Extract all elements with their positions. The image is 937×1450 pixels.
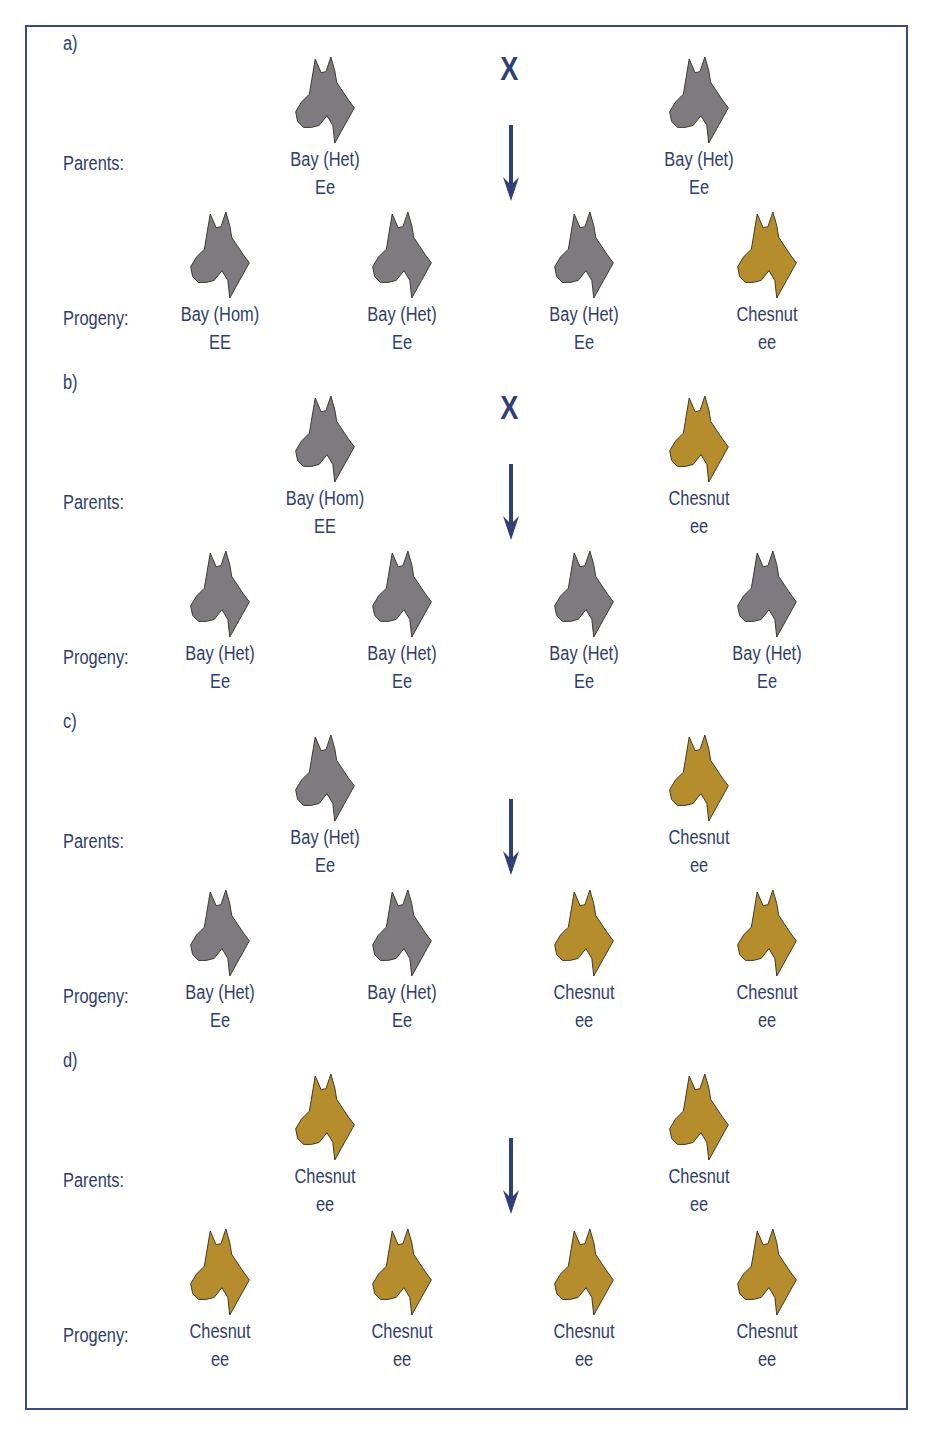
arrow-down-icon [501, 464, 521, 542]
cross-section: a) Parents: Progeny: XBay (Het)EeBay (He… [27, 27, 906, 367]
genotype-label: ee [167, 1345, 274, 1373]
cross-section: c) Parents: Progeny: Bay (Het)EeChesnute… [27, 705, 906, 1045]
genotype-label: Ee [272, 851, 379, 879]
phenotype-label: Bay (Het) [349, 300, 456, 328]
phenotype-label: Bay (Het) [531, 300, 638, 328]
genotype-label: ee [272, 1190, 379, 1218]
phenotype-label: Bay (Het) [714, 639, 821, 667]
phenotype-label: Chesnut [714, 978, 821, 1006]
phenotype-label: Bay (Het) [531, 639, 638, 667]
progeny-horse: Chesnutee [702, 212, 832, 356]
genotype-label: Ee [349, 1006, 456, 1034]
phenotype-label: Bay (Het) [272, 145, 379, 173]
parent-horse: Bay (Het)Ee [634, 57, 764, 201]
parent-horse: Bay (Het)Ee [260, 735, 390, 879]
phenotype-label: Chesnut [531, 1317, 638, 1345]
genotype-label: Ee [272, 173, 379, 201]
progeny-horse: Chesnutee [519, 890, 649, 1034]
phenotype-label: Bay (Het) [646, 145, 753, 173]
phenotype-label: Bay (Het) [167, 639, 274, 667]
progeny-horse: Bay (Het)Ee [155, 890, 285, 1034]
progeny-horse: Bay (Het)Ee [519, 551, 649, 695]
horse-head-icon [290, 1074, 360, 1162]
phenotype-label: Bay (Hom) [272, 484, 379, 512]
horse-head-icon [290, 57, 360, 145]
progeny-row-label: Progeny: [63, 307, 129, 330]
horse-head-icon [185, 1229, 255, 1317]
genotype-label: Ee [714, 667, 821, 695]
progeny-horse: Bay (Het)Ee [337, 890, 467, 1034]
cross-symbol: X [500, 388, 518, 427]
genotype-label: ee [646, 851, 753, 879]
phenotype-label: Bay (Het) [167, 978, 274, 1006]
progeny-horse: Bay (Hom)EE [155, 212, 285, 356]
genotype-label: Ee [167, 1006, 274, 1034]
arrow-down-icon [501, 1138, 521, 1216]
cross-symbol: X [500, 49, 518, 88]
phenotype-label: Bay (Het) [272, 823, 379, 851]
horse-head-icon [367, 551, 437, 639]
parent-horse: Bay (Het)Ee [260, 57, 390, 201]
genotype-label: Ee [531, 328, 638, 356]
horse-head-icon [185, 212, 255, 300]
parents-row-label: Parents: [63, 830, 124, 853]
phenotype-label: Bay (Het) [349, 978, 456, 1006]
genotype-label: Ee [646, 173, 753, 201]
horse-head-icon [290, 735, 360, 823]
phenotype-label: Chesnut [646, 484, 753, 512]
parent-horse: Chesnutee [634, 1074, 764, 1218]
progeny-horse: Bay (Het)Ee [519, 212, 649, 356]
phenotype-label: Chesnut [272, 1162, 379, 1190]
genotype-label: EE [272, 512, 379, 540]
progeny-horse: Chesnutee [519, 1229, 649, 1373]
section-label: a) [63, 32, 78, 55]
progeny-horse: Bay (Het)Ee [337, 212, 467, 356]
phenotype-label: Chesnut [167, 1317, 274, 1345]
section-label: c) [63, 710, 77, 733]
diagram-frame: a) Parents: Progeny: XBay (Het)EeBay (He… [25, 25, 908, 1410]
horse-head-icon [549, 1229, 619, 1317]
parent-horse: Chesnutee [260, 1074, 390, 1218]
horse-head-icon [290, 396, 360, 484]
horse-head-icon [664, 396, 734, 484]
progeny-horse: Bay (Het)Ee [702, 551, 832, 695]
genotype-label: Ee [167, 667, 274, 695]
parent-horse: Chesnutee [634, 735, 764, 879]
genotype-label: ee [531, 1345, 638, 1373]
genotype-label: ee [531, 1006, 638, 1034]
parents-row-label: Parents: [63, 491, 124, 514]
progeny-row-label: Progeny: [63, 646, 129, 669]
progeny-horse: Chesnutee [702, 890, 832, 1034]
genotype-label: Ee [349, 328, 456, 356]
parent-horse: Chesnutee [634, 396, 764, 540]
progeny-row-label: Progeny: [63, 985, 129, 1008]
horse-head-icon [664, 1074, 734, 1162]
horse-head-icon [185, 890, 255, 978]
horse-head-icon [549, 212, 619, 300]
genotype-label: ee [714, 328, 821, 356]
section-label: d) [63, 1049, 78, 1072]
progeny-horse: Chesnutee [337, 1229, 467, 1373]
phenotype-label: Chesnut [349, 1317, 456, 1345]
genotype-label: ee [646, 512, 753, 540]
horse-head-icon [367, 890, 437, 978]
horse-head-icon [732, 890, 802, 978]
horse-head-icon [664, 735, 734, 823]
horse-head-icon [664, 57, 734, 145]
genotype-label: Ee [531, 667, 638, 695]
horse-head-icon [367, 212, 437, 300]
phenotype-label: Chesnut [531, 978, 638, 1006]
progeny-horse: Chesnutee [155, 1229, 285, 1373]
progeny-horse: Chesnutee [702, 1229, 832, 1373]
horse-head-icon [185, 551, 255, 639]
progeny-row-label: Progeny: [63, 1324, 129, 1347]
arrow-down-icon [501, 799, 521, 877]
progeny-horse: Bay (Het)Ee [155, 551, 285, 695]
genotype-label: ee [714, 1345, 821, 1373]
progeny-horse: Bay (Het)Ee [337, 551, 467, 695]
genotype-label: EE [167, 328, 274, 356]
parent-horse: Bay (Hom)EE [260, 396, 390, 540]
genotype-label: ee [646, 1190, 753, 1218]
phenotype-label: Bay (Hom) [167, 300, 274, 328]
cross-section: b) Parents: Progeny: XBay (Hom)EEChesnut… [27, 366, 906, 706]
